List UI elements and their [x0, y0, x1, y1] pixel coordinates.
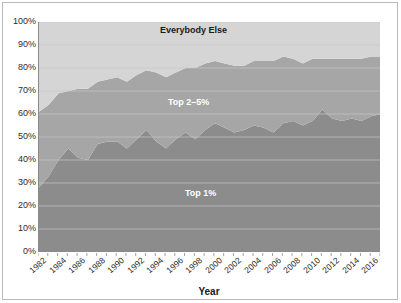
x-axis-tick-marks: [38, 253, 380, 257]
x-axis-title: Year: [38, 286, 380, 297]
y-tick-label: 20%: [2, 201, 36, 210]
x-axis-tick-labels: 1982198419861988199019921994199619982000…: [38, 253, 380, 285]
y-tick-label: 30%: [2, 178, 36, 187]
y-tick-label: 0%: [2, 247, 36, 256]
y-tick-label: 70%: [2, 86, 36, 95]
series-label-top-2-5: Top 2–5%: [168, 97, 209, 107]
x-tick-label: 2004: [238, 256, 263, 280]
y-tick-label: 40%: [2, 155, 36, 164]
series-label-everybody-else: Everybody Else: [160, 25, 227, 35]
plot-area: [38, 22, 380, 252]
stacked-area-svg: [39, 22, 380, 252]
y-tick-label: 50%: [2, 132, 36, 141]
y-tick-label: 10%: [2, 224, 36, 233]
chart-container: 100%90%80%70%60%50%40%30%20%10%0% Everyb…: [0, 0, 401, 303]
y-axis-tick-labels: 100%90%80%70%60%50%40%30%20%10%0%: [0, 0, 36, 303]
y-tick-label: 60%: [2, 109, 36, 118]
y-tick-label: 100%: [2, 17, 36, 26]
y-tick-label: 80%: [2, 63, 36, 72]
y-tick-label: 90%: [2, 40, 36, 49]
series-label-top-1: Top 1%: [185, 188, 216, 198]
